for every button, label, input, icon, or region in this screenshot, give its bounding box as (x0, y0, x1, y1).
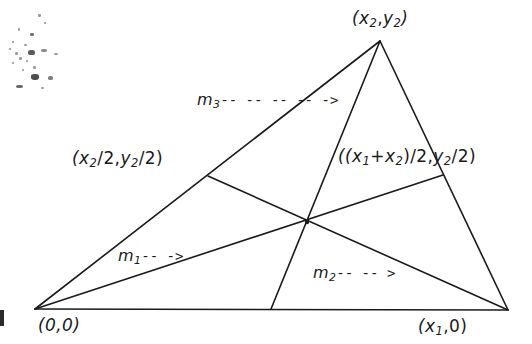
scan-edge-artifact (0, 310, 4, 326)
midpoint-label-right: ((x1+x2)/2,y2/2) (338, 148, 476, 168)
scan-noise-speckles (0, 0, 70, 95)
vertex-label-origin: (0,0) (38, 317, 80, 334)
median-arrow-m2: -- -- > (336, 265, 395, 281)
median-arrow-m3: -- -- -- -- -> (220, 92, 338, 108)
triangle-diagram (0, 0, 532, 344)
median-label-m3: m3-- -- -- -- -> (197, 92, 338, 111)
figure-canvas: (x2,y2) (x2/2,y2/2) ((x1+x2)/2,y2/2) (0,… (0, 0, 532, 344)
vertex-label-x1: (x1,0) (418, 318, 467, 338)
centroid-point (305, 220, 309, 224)
median-m1 (35, 175, 443, 309)
median-label-m2: m2-- -- > (313, 265, 395, 284)
median-m2 (208, 176, 508, 310)
triangle-side-right (380, 41, 508, 310)
vertex-label-apex: (x2,y2) (352, 10, 408, 30)
median-label-m1: m1-- -> (118, 248, 183, 267)
midpoint-label-left: (x2/2,y2/2) (72, 150, 163, 170)
median-arrow-m1: -- -> (141, 248, 183, 264)
